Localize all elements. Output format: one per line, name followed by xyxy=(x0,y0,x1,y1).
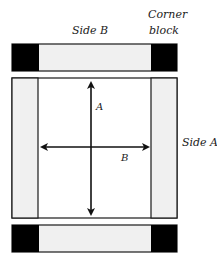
diagram-svg xyxy=(0,0,217,265)
corner-block-label-line2: block xyxy=(149,25,179,37)
arrow-b-label: B xyxy=(121,152,128,164)
frame-diagram: Side B Corner block Side A A B xyxy=(0,0,217,265)
right-side-a-strip xyxy=(151,78,177,218)
side-b-label: Side B xyxy=(72,25,108,37)
middle-frame xyxy=(12,78,177,218)
corner-block-bottom-left xyxy=(12,225,39,252)
bottom-side-b-bar xyxy=(12,225,177,252)
arrow-a-label: A xyxy=(96,101,103,113)
corner-block-label-line1: Corner xyxy=(148,9,187,21)
side-a-label: Side A xyxy=(182,137,217,149)
left-side-a-strip xyxy=(12,78,38,218)
corner-block-bottom-right xyxy=(151,225,177,252)
corner-block-top-right xyxy=(151,44,177,71)
corner-block-top-left xyxy=(12,44,39,71)
top-side-b-bar xyxy=(12,44,177,71)
